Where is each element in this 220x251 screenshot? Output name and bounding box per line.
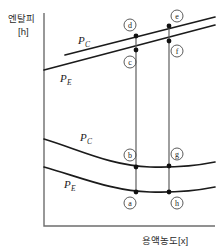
- point-label-letter: c: [128, 58, 132, 67]
- point-dot-d: [134, 34, 139, 39]
- point-label-e: e: [171, 10, 183, 22]
- curve-label-subscript: E: [70, 184, 76, 193]
- curve-label-lower-pe: P E: [63, 178, 76, 193]
- point-label-letter: f: [176, 47, 179, 56]
- point-label-b: b: [124, 149, 136, 161]
- point-label-c: c: [124, 56, 136, 68]
- diagram-canvas: 엔탈피 [h] 용액농도[x] P C P E P C P E: [0, 0, 220, 251]
- point-label-f: f: [171, 45, 183, 57]
- point-dot-h: [167, 190, 172, 195]
- point-dot-f: [167, 39, 172, 44]
- axis-group: [44, 13, 215, 226]
- cropped-header-text: [4, 0, 216, 4]
- curve-label-text: P: [77, 34, 85, 46]
- curve-upper-pc: [65, 17, 215, 55]
- curve-label-subscript: C: [87, 137, 93, 146]
- curve-label-subscript: E: [66, 78, 72, 87]
- point-dot-c: [134, 48, 139, 53]
- point-label-letter: g: [175, 150, 179, 159]
- x-axis-label: 용액농도[x]: [142, 235, 188, 246]
- axis-lines: [44, 13, 215, 226]
- point-label-h: h: [171, 197, 183, 209]
- point-dot-e: [167, 24, 172, 29]
- y-axis-label-line1: 엔탈피: [8, 13, 35, 24]
- point-dot-b: [134, 165, 139, 170]
- point-label-letter: a: [128, 199, 132, 208]
- curve-label-upper-pe: P E: [59, 72, 72, 87]
- point-label-a: a: [124, 197, 136, 209]
- point-label-letter: h: [175, 199, 179, 208]
- point-label-d: d: [124, 19, 136, 31]
- enthalpy-concentration-diagram: 엔탈피 [h] 용액농도[x] P C P E P C P E: [0, 0, 220, 251]
- curve-label-lower-pc: P C: [79, 131, 93, 146]
- y-axis-label-line2: [h]: [18, 26, 29, 37]
- curve-label-text: P: [59, 72, 67, 84]
- point-label-letter: b: [128, 151, 132, 160]
- curve-label-text: P: [79, 131, 87, 143]
- point-dot-g: [167, 164, 172, 169]
- point-label-letter: e: [175, 12, 179, 21]
- point-label-letter: d: [128, 21, 132, 30]
- curve-label-text: P: [63, 178, 71, 190]
- curve-label-subscript: C: [85, 40, 91, 49]
- point-dot-a: [134, 190, 139, 195]
- point-label-g: g: [171, 148, 183, 160]
- curve-label-upper-pc: P C: [77, 34, 91, 49]
